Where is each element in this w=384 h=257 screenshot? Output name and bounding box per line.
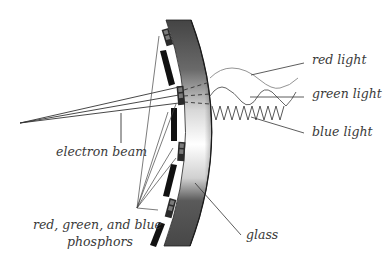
blue-light-leader — [251, 117, 304, 133]
green-light-label: green light — [312, 87, 382, 101]
electron-beam-label: electron beam — [56, 145, 147, 159]
mask-bar-1 — [160, 50, 175, 86]
blue-light-label: blue light — [312, 125, 373, 139]
red-light-wave — [210, 68, 298, 88]
glass-label: glass — [246, 228, 278, 242]
green-light-wave — [210, 87, 296, 106]
phosphors-label-line1: red, green, and blue — [33, 218, 133, 232]
electron-beam — [20, 87, 179, 143]
phosphor-triad-3 — [177, 142, 185, 161]
phosphors-label-line2: phosphors — [33, 235, 133, 249]
mask-bar-2 — [171, 108, 177, 141]
light-waves — [210, 68, 298, 120]
red-light-leader — [251, 63, 304, 75]
red-light-label: red light — [312, 53, 366, 67]
blue-light-wave — [212, 106, 284, 120]
mask-bar-3 — [163, 164, 177, 197]
